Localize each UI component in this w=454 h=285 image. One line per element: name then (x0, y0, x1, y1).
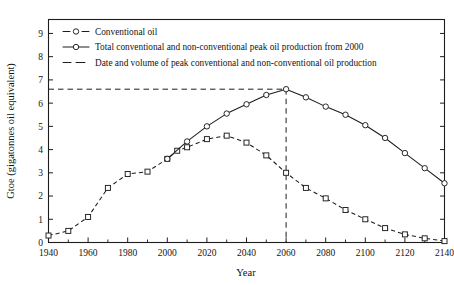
legend-item-1: Conventional oil (63, 27, 158, 37)
data-point (204, 137, 209, 142)
x-tick-label: 2000 (158, 248, 177, 258)
data-point (244, 140, 249, 145)
data-point (442, 239, 447, 244)
plot-frame (49, 20, 445, 243)
x-tick-label: 1960 (79, 248, 98, 258)
data-point (244, 102, 249, 107)
data-point (303, 185, 308, 190)
data-point (204, 124, 209, 129)
data-point (383, 226, 388, 231)
data-point (442, 181, 447, 186)
y-tick-label: 5 (38, 122, 43, 132)
data-point (145, 169, 150, 174)
x-tick-label: 1940 (39, 248, 58, 258)
data-point (105, 185, 110, 190)
y-tick-label: 2 (38, 191, 43, 201)
x-tick-label: 2100 (356, 248, 375, 258)
y-tick-label: 9 (38, 29, 43, 39)
data-point (323, 104, 328, 109)
data-point (343, 112, 348, 117)
legend-label: Date and volume of peak conventional and… (95, 58, 377, 68)
data-point (422, 236, 427, 241)
y-tick-label: 0 (38, 238, 43, 248)
x-tick-label: 2080 (316, 248, 335, 258)
y-tick-label: 7 (38, 75, 43, 85)
peak-oil-line-chart: 0123456789 19401960198020002020204020602… (0, 0, 454, 285)
x-tick-label: 2060 (277, 248, 296, 258)
x-tick-label: 1980 (118, 248, 137, 258)
data-point (303, 95, 308, 100)
legend-marker (73, 44, 78, 49)
y-axis-title-text: Gtoe (gigatonnes oil equivalent) (5, 63, 17, 199)
data-point (224, 133, 229, 138)
series-1 (46, 133, 447, 243)
data-series-layer (46, 86, 447, 243)
data-point (382, 135, 387, 140)
x-axis-tick-labels: 1940196019802000202020402060208021002120… (39, 248, 454, 258)
x-axis-title: Year (236, 267, 256, 278)
chart-legend: Conventional oilTotal conventional and n… (63, 27, 377, 68)
x-tick-label: 2120 (395, 248, 414, 258)
data-point (125, 171, 130, 176)
x-tick-label: 2140 (435, 248, 454, 258)
data-point (422, 165, 427, 170)
x-tick-label: 2020 (197, 248, 216, 258)
data-point (363, 122, 368, 127)
data-point (184, 139, 189, 144)
y-tick-label: 6 (38, 99, 43, 109)
y-axis-tick-labels: 0123456789 (38, 29, 43, 248)
data-point (402, 150, 407, 155)
data-point (66, 228, 71, 233)
legend-item-2: Total conventional and non-conventional … (63, 42, 364, 52)
chart-figure: 0123456789 19401960198020002020204020602… (0, 0, 454, 285)
legend-item-3: Date and volume of peak conventional and… (63, 58, 377, 68)
data-point (323, 196, 328, 201)
data-point (402, 232, 407, 237)
data-point (86, 214, 91, 219)
x-tick-label: 2040 (237, 248, 256, 258)
data-point (224, 111, 229, 116)
legend-label: Total conventional and non-conventional … (95, 42, 364, 52)
data-point (264, 92, 269, 97)
y-tick-label: 4 (38, 145, 43, 155)
data-point (284, 170, 289, 175)
y-tick-label: 3 (38, 168, 43, 178)
legend-marker (73, 29, 78, 34)
data-point (46, 233, 51, 238)
data-point (185, 145, 190, 150)
y-tick-label: 8 (38, 52, 43, 62)
data-point (283, 86, 288, 91)
x-axis-ticks (49, 238, 445, 243)
legend-label: Conventional oil (95, 27, 158, 37)
y-tick-label: 1 (38, 215, 43, 225)
data-point (165, 156, 170, 161)
x-axis-title-text: Year (236, 267, 256, 278)
data-point (264, 153, 269, 158)
data-point (363, 217, 368, 222)
data-point (343, 207, 348, 212)
y-axis-title: Gtoe (gigatonnes oil equivalent) (5, 63, 17, 199)
